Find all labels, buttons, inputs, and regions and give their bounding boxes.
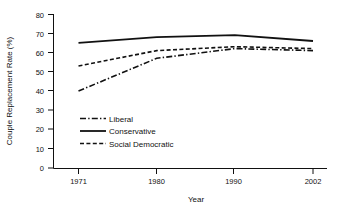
x-tick-label: 2002 [305,177,322,186]
x-tick-label: 1990 [225,177,242,186]
legend-item-conservative: Conservative [80,127,156,136]
chart-legend: Liberal Conservative Social Democratic [80,115,173,149]
series-line-conservative [79,35,314,43]
y-tick-label: 10 [36,145,44,154]
y-axis-ticks: 80 70 60 50 40 30 20 10 0 [36,11,54,174]
y-axis-title: Couple Replacement Rate (%) [5,36,14,145]
legend-label-social-democratic: Social Democratic [109,140,173,149]
y-tick-label: 80 [36,11,44,20]
y-tick-label: 0 [40,164,44,173]
chart-canvas: 80 70 60 50 40 30 20 10 0 1971 1980 [0,0,337,210]
legend-label-liberal: Liberal [109,115,133,124]
series-line-liberal [79,49,314,91]
x-axis-ticks: 1971 1980 1990 2002 [70,169,321,187]
y-tick-label: 70 [36,30,44,39]
x-tick-label: 1980 [148,177,165,186]
legend-item-liberal: Liberal [80,115,133,124]
legend-label-conservative: Conservative [109,127,156,136]
x-axis-title: Year [188,195,205,204]
y-tick-label: 20 [36,125,44,134]
y-tick-label: 50 [36,68,44,77]
y-tick-label: 60 [36,49,44,58]
y-tick-label: 30 [36,106,44,115]
legend-item-social-democratic: Social Democratic [80,140,173,149]
line-chart: 80 70 60 50 40 30 20 10 0 1971 1980 [0,0,337,210]
y-tick-label: 40 [36,87,44,96]
x-tick-label: 1971 [70,177,87,186]
